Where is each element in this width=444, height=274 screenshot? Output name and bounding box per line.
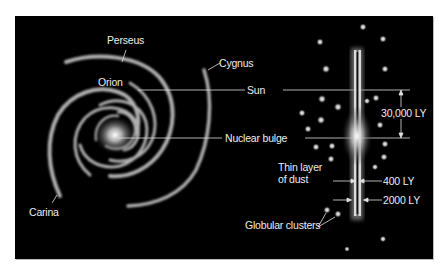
disk-thickness-label: 2000 LY — [383, 194, 420, 206]
globular-clusters-label: Globular clusters — [245, 219, 320, 231]
edge-on-galaxy — [298, 23, 403, 252]
galactic-core — [93, 115, 137, 155]
nuclear-bulge-label: Nuclear bulge — [223, 132, 289, 144]
perseus-label: Perseus — [107, 34, 144, 46]
edge-on-bulge — [341, 106, 373, 166]
sun-label: Sun — [245, 84, 267, 96]
cygnus-label: Cygnus — [219, 57, 253, 69]
galaxy-illustration — [0, 0, 444, 274]
dust-label-line2: of dust — [278, 173, 308, 185]
dust-thickness-label: 400 LY — [383, 175, 414, 187]
bulge-height-label: 30,000 LY — [379, 107, 428, 119]
spiral-galaxy — [50, 50, 220, 206]
carina-label: Carina — [29, 206, 59, 218]
dust-label-line1: Thin layer — [278, 161, 322, 173]
orion-label: Orion — [98, 76, 123, 88]
